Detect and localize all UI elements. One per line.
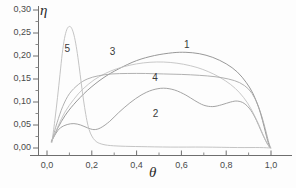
y-axis-ticks — [33, 10, 39, 148]
curve-2 — [51, 88, 269, 147]
y-tick-label: 0,15 — [0, 73, 31, 83]
x-tick-label: 0,6 — [161, 160, 201, 170]
y-tick-label: 0,30 — [0, 4, 31, 14]
x-axis-title: θ — [149, 164, 156, 181]
y-tick-label: 0,00 — [0, 142, 31, 152]
curve-4 — [51, 73, 270, 148]
y-tick-label: 0,20 — [0, 50, 31, 60]
x-tick-label: 0,8 — [206, 160, 246, 170]
x-tick-label: 0,0 — [27, 160, 67, 170]
y-tick-label: 0,10 — [0, 96, 31, 106]
y-tick-label: 0,05 — [0, 119, 31, 129]
curve-1 — [51, 52, 269, 147]
curve-label-2: 2 — [153, 108, 159, 119]
axis-lines — [30, 6, 292, 156]
curve-label-1: 1 — [184, 39, 190, 50]
data-curves — [51, 26, 271, 148]
x-tick-label: 1,0 — [251, 160, 291, 170]
y-axis-title: η — [40, 2, 47, 19]
y-tick-label: 0,25 — [0, 27, 31, 37]
curve-label-3: 3 — [110, 46, 116, 57]
x-axis-ticks — [47, 151, 271, 156]
curve-label-4: 4 — [152, 72, 158, 83]
curve-label-5: 5 — [65, 43, 71, 54]
x-tick-label: 0,2 — [72, 160, 112, 170]
chart-figure: 0,000,050,100,150,200,250,30 0,00,20,40,… — [0, 0, 296, 188]
